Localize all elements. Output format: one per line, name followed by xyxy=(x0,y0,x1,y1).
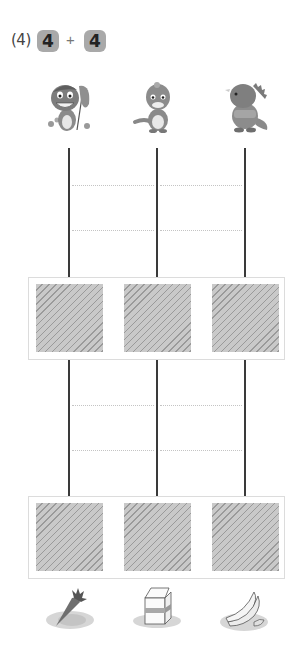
answer-row-2 xyxy=(28,496,285,579)
banana-icon xyxy=(216,588,272,632)
carrot-icon xyxy=(42,586,98,630)
dino-net-icon xyxy=(43,78,95,134)
rung-slot[interactable] xyxy=(160,230,242,231)
ladder-line-1b xyxy=(68,360,70,496)
answer-box[interactable] xyxy=(212,284,279,352)
ladder-line-3a xyxy=(244,148,246,277)
rung-slot[interactable] xyxy=(72,405,154,406)
ladder-line-1a xyxy=(68,148,70,277)
problem-number: (4) xyxy=(11,31,31,49)
rung-slot[interactable] xyxy=(72,450,154,451)
dino-rhino-icon xyxy=(219,78,271,134)
rung-slot[interactable] xyxy=(72,230,154,231)
dino-baby-icon xyxy=(131,78,183,134)
ladder-line-2a xyxy=(156,148,158,277)
answer-box[interactable] xyxy=(124,284,191,352)
answer-box[interactable] xyxy=(124,503,191,571)
rung-slot[interactable] xyxy=(160,185,242,186)
ladder-line-3b xyxy=(244,360,246,496)
answer-box[interactable] xyxy=(36,284,103,352)
rung-slot[interactable] xyxy=(160,405,242,406)
plus-sign: + xyxy=(66,31,75,48)
answer-box[interactable] xyxy=(36,503,103,571)
rung-slot[interactable] xyxy=(160,450,242,451)
rung-slot[interactable] xyxy=(72,185,154,186)
answer-box[interactable] xyxy=(212,503,279,571)
milk-carton-icon xyxy=(129,584,185,628)
answer-row-1 xyxy=(28,277,285,360)
operand-b-badge: 4 xyxy=(84,30,106,52)
ladder-line-2b xyxy=(156,360,158,496)
operand-a-badge: 4 xyxy=(37,30,59,52)
